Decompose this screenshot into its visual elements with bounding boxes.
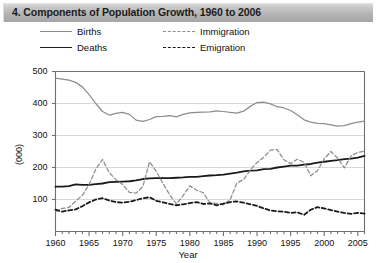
x-tick-label: 2005 xyxy=(338,238,376,248)
series-line-immigration xyxy=(56,150,365,212)
chart-canvas xyxy=(0,0,376,263)
chart-plot-area: (000) Year 100200300400500 1960196519701… xyxy=(0,0,376,263)
axis-ticks xyxy=(52,72,365,237)
series-lines xyxy=(56,78,365,215)
gridlines xyxy=(56,72,365,200)
y-tick-label: 200 xyxy=(22,162,48,172)
y-tick-label: 500 xyxy=(22,66,48,76)
y-tick-label: 400 xyxy=(22,98,48,108)
y-tick-label: 100 xyxy=(22,194,48,204)
y-tick-label: 300 xyxy=(22,130,48,140)
x-axis-label: Year xyxy=(0,249,376,260)
series-line-births xyxy=(56,78,365,126)
figure-panel: 4. Components of Population Growth, 1960… xyxy=(0,0,376,263)
